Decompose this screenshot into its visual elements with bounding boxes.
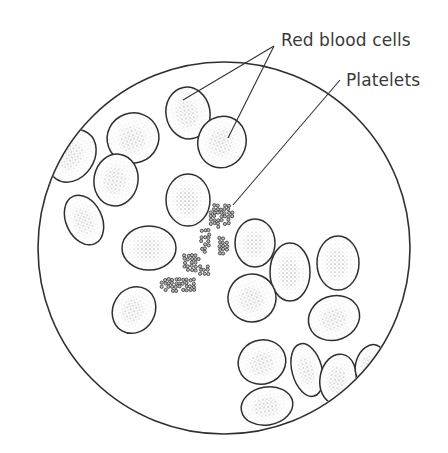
platelet — [225, 241, 228, 244]
platelet — [216, 211, 219, 214]
platelet — [164, 279, 167, 282]
platelet — [181, 282, 184, 285]
platelet — [183, 257, 186, 260]
platelet — [160, 281, 163, 284]
platelet — [167, 278, 170, 281]
platelet — [190, 264, 193, 267]
platelet — [212, 208, 215, 211]
platelet — [190, 254, 193, 257]
platelet — [188, 285, 191, 288]
platelet — [184, 261, 187, 264]
platelet — [222, 247, 225, 250]
platelet — [207, 240, 210, 243]
platelet — [231, 211, 234, 214]
platelet — [185, 289, 188, 292]
platelet — [186, 268, 189, 271]
platelet — [186, 265, 189, 268]
platelet — [187, 254, 190, 257]
blood-smear-figure — [0, 0, 448, 453]
platelet — [171, 285, 174, 288]
platelet — [223, 222, 226, 225]
red-blood-cell — [104, 279, 164, 342]
platelet — [228, 211, 231, 214]
platelet — [224, 204, 227, 207]
platelet — [200, 236, 203, 239]
platelet — [175, 289, 178, 292]
platelet — [217, 225, 220, 228]
red-blood-cell — [302, 288, 366, 347]
platelet — [160, 285, 163, 288]
platelet — [207, 228, 210, 231]
platelet — [200, 229, 203, 232]
platelet — [190, 261, 193, 264]
red-blood-cell — [122, 226, 176, 270]
platelet — [220, 219, 223, 222]
platelet — [217, 219, 220, 222]
platelet — [216, 222, 219, 225]
platelet — [189, 288, 192, 291]
platelet — [220, 215, 223, 218]
leader-line — [233, 80, 340, 205]
platelet — [227, 208, 230, 211]
platelet — [216, 204, 219, 207]
platelet — [197, 257, 200, 260]
platelet — [189, 279, 192, 282]
platelet — [204, 236, 207, 239]
platelet — [222, 237, 225, 240]
platelet — [227, 218, 230, 221]
platelet — [199, 272, 202, 275]
platelet — [227, 222, 230, 225]
red-blood-cell — [232, 333, 292, 391]
platelet — [209, 211, 212, 214]
platelet — [191, 257, 194, 260]
platelet — [194, 261, 197, 264]
platelet — [203, 250, 206, 253]
platelet — [193, 288, 196, 291]
platelet — [227, 204, 230, 207]
platelet — [231, 215, 234, 218]
platelet — [213, 221, 216, 224]
platelet — [225, 248, 228, 251]
platelet — [183, 254, 186, 257]
platelet — [182, 278, 185, 281]
platelet — [178, 285, 181, 288]
platelet — [167, 282, 170, 285]
platelet — [185, 281, 188, 284]
platelet — [194, 265, 197, 268]
platelet — [218, 236, 221, 239]
platelet — [192, 282, 195, 285]
red-blood-cell — [235, 219, 275, 267]
platelet — [207, 236, 210, 239]
red-blood-cell — [316, 351, 360, 406]
platelet — [218, 252, 221, 255]
platelet — [218, 245, 221, 248]
platelet — [206, 268, 209, 271]
platelet — [207, 244, 210, 247]
platelet — [223, 215, 226, 218]
platelet — [178, 278, 181, 281]
platelet — [183, 265, 186, 268]
platelet — [192, 278, 195, 281]
platelet — [194, 254, 197, 257]
label-red-blood-cells: Red blood cells — [281, 30, 411, 50]
platelet — [203, 272, 206, 275]
platelet — [207, 272, 210, 275]
red-blood-cell — [166, 174, 210, 226]
platelet — [174, 285, 177, 288]
platelet — [194, 269, 197, 272]
platelet — [191, 268, 194, 271]
platelet — [223, 208, 226, 211]
platelet — [209, 218, 212, 221]
platelet — [203, 247, 206, 250]
platelet — [226, 245, 229, 248]
platelet — [164, 282, 167, 285]
platelet — [185, 278, 188, 281]
platelet — [164, 288, 167, 291]
label-platelets: Platelets — [346, 70, 420, 90]
platelet — [182, 288, 185, 291]
platelet — [213, 204, 216, 207]
platelet — [204, 243, 207, 246]
platelet — [200, 239, 203, 242]
platelet — [213, 214, 216, 217]
platelet — [209, 214, 212, 217]
